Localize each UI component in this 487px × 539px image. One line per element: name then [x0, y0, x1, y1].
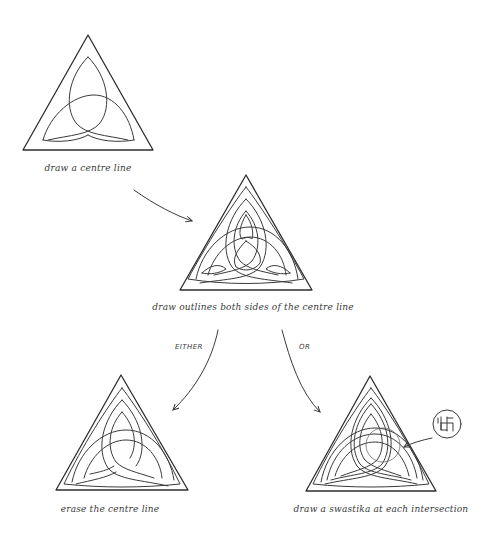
step2-figure — [180, 175, 312, 290]
magnify-circle — [366, 428, 400, 462]
trinity-outlined — [188, 187, 304, 284]
step3a-figure — [56, 375, 188, 490]
caption-step3b: draw a swastika at each intersection — [294, 504, 469, 514]
trinity-centre-line — [43, 57, 134, 141]
outer-triangle — [56, 375, 188, 490]
arrow-step1-to-step2 — [134, 190, 192, 221]
caption-step1: draw a centre line — [45, 163, 132, 173]
caption-step3a: erase the centre line — [61, 504, 160, 514]
branch-label-or: OR — [299, 343, 310, 351]
caption-step2: draw outlines both sides of the centre l… — [152, 302, 354, 312]
step3b-figure — [306, 376, 461, 491]
trinity-interlaced — [64, 388, 180, 487]
outer-triangle — [180, 175, 312, 290]
outer-triangle — [23, 35, 153, 150]
branch-label-either: EITHER — [175, 343, 203, 351]
step1-figure — [23, 35, 153, 150]
swastika-icon — [433, 410, 461, 438]
trinity-interlaced-double — [313, 388, 429, 487]
diagram-canvas — [0, 0, 487, 539]
arrow-either — [173, 330, 218, 410]
